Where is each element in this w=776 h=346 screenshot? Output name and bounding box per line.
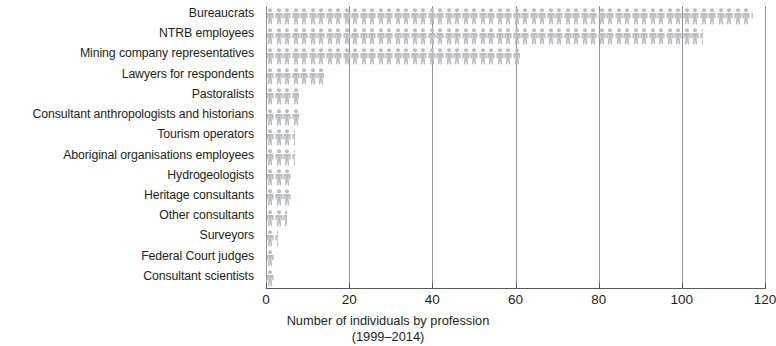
person-figure-icon [283, 188, 291, 207]
person-figure-icon [283, 168, 291, 187]
person-figure-icon [589, 7, 598, 26]
person-figure-icon [317, 27, 326, 46]
bar [266, 249, 274, 268]
pictogram-bar-chart: BureaucratsNTRB employeesMining company … [0, 0, 776, 346]
person-figure-icon [326, 47, 335, 66]
person-figure-icon [309, 27, 318, 46]
person-figure-icon [275, 148, 284, 167]
person-figure-icon [632, 27, 641, 46]
bar [266, 87, 299, 106]
person-figure-icon [394, 7, 403, 26]
person-figure-icon [368, 27, 377, 46]
person-figure-icon [266, 269, 274, 288]
person-figure-icon [334, 27, 343, 46]
person-figure-icon [283, 67, 292, 86]
person-figure-icon [300, 27, 309, 46]
y-axis-label: NTRB employees [159, 27, 254, 40]
person-figure-icon [419, 47, 428, 66]
x-tick-label: 60 [508, 292, 523, 307]
person-figure-icon [496, 47, 505, 66]
person-figure-icon [275, 188, 284, 207]
person-figure-icon [683, 27, 692, 46]
person-figure-icon [360, 7, 369, 26]
person-figure-icon [564, 27, 573, 46]
plot-area [266, 6, 765, 289]
person-figure-icon [351, 7, 360, 26]
person-figure-icon [513, 7, 522, 26]
person-figure-icon [283, 209, 287, 228]
person-figure-icon [547, 7, 556, 26]
y-axis-label: Other consultants [159, 209, 254, 222]
person-figure-icon [402, 27, 411, 46]
person-figure-icon [283, 148, 292, 167]
person-figure-icon [521, 27, 530, 46]
person-figure-icon [538, 27, 547, 46]
bar [266, 148, 295, 167]
person-figure-icon [283, 87, 292, 106]
person-figure-icon [300, 67, 309, 86]
x-tick-label: 120 [754, 292, 776, 307]
person-figure-icon [657, 27, 666, 46]
x-tick-label: 40 [425, 292, 440, 307]
y-axis-label: Surveyors [200, 229, 254, 242]
person-figure-icon [368, 7, 377, 26]
bar [266, 128, 295, 147]
bar [266, 168, 291, 187]
person-figure-icon [445, 47, 454, 66]
person-figure-icon [292, 67, 301, 86]
person-figure-icon [326, 7, 335, 26]
person-figure-icon [581, 27, 590, 46]
person-figure-icon [402, 7, 411, 26]
person-figure-icon [589, 27, 598, 46]
person-figure-icon [385, 47, 394, 66]
y-axis-label: Heritage consultants [144, 189, 254, 202]
person-figure-icon [649, 27, 658, 46]
person-figure-icon [317, 67, 324, 86]
person-figure-icon [470, 7, 479, 26]
person-figure-icon [326, 27, 335, 46]
person-figure-icon [674, 27, 683, 46]
person-figure-icon [317, 47, 326, 66]
person-figure-icon [666, 7, 675, 26]
person-figure-icon [266, 249, 274, 268]
x-tick-label: 100 [671, 292, 694, 307]
person-figure-icon [487, 47, 496, 66]
person-figure-icon [266, 128, 275, 147]
gridline [765, 6, 766, 289]
y-axis-label: Pastoralists [192, 88, 254, 101]
person-figure-icon [377, 7, 386, 26]
person-figure-icon [266, 27, 275, 46]
person-figure-icon [275, 7, 284, 26]
person-figure-icon [453, 7, 462, 26]
x-tick-mark [432, 283, 433, 289]
person-figure-icon [700, 27, 703, 46]
y-axis-category-labels: BureaucratsNTRB employeesMining company … [0, 6, 258, 289]
person-figure-icon [725, 7, 734, 26]
person-figure-icon [275, 229, 279, 248]
bar [266, 209, 287, 228]
person-figure-icon [479, 27, 488, 46]
person-figure-icon [470, 47, 479, 66]
person-figure-icon [309, 47, 318, 66]
person-figure-icon [292, 47, 301, 66]
person-figure-icon [538, 7, 547, 26]
x-tick-mark [349, 283, 350, 289]
person-figure-icon [309, 67, 318, 86]
bar [266, 47, 520, 66]
person-figure-icon [292, 7, 301, 26]
person-figure-icon [411, 47, 420, 66]
person-figure-icon [334, 47, 343, 66]
person-figure-icon [436, 7, 445, 26]
person-figure-icon [734, 7, 743, 26]
person-figure-icon [266, 108, 275, 127]
person-figure-icon [606, 7, 615, 26]
person-figure-icon [283, 27, 292, 46]
person-figure-icon [691, 7, 700, 26]
person-figure-icon [445, 27, 454, 46]
x-tick-mark [682, 283, 683, 289]
person-figure-icon [283, 128, 292, 147]
bar [266, 108, 299, 127]
person-figure-icon [700, 7, 709, 26]
bar [266, 27, 703, 46]
bar [266, 229, 278, 248]
